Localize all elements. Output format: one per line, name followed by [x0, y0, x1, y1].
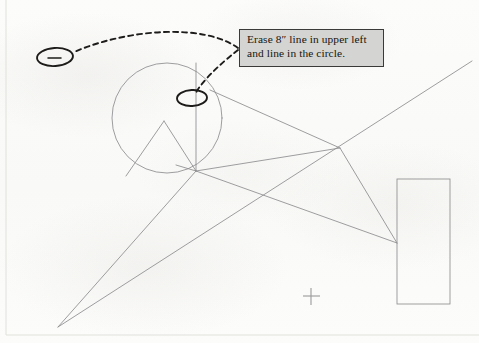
leader-to-circle-ellipse — [196, 50, 238, 93]
cad-geometry — [58, 61, 472, 327]
callout-line-1: Erase 8″ line in upper left — [247, 33, 377, 47]
ellipse-upper-left — [36, 47, 73, 67]
crossing-right-to-rect-node — [340, 148, 397, 243]
callout-line-2: and line in the circle. — [247, 47, 377, 61]
long-diagonal-lower-left-to-upper-right — [58, 61, 472, 327]
circle-peak-left-leg — [126, 121, 164, 176]
hub-to-lower-left-apex — [58, 171, 196, 327]
circle-right-tangent-to-crossing — [210, 90, 340, 148]
circle-peak-right-leg — [164, 121, 196, 171]
hub-to-rect-node — [196, 171, 397, 243]
handwritten-annotation-layer — [36, 32, 238, 107]
right-rectangle — [397, 179, 450, 304]
scanned-drawing-page: Erase 8″ line in upper left and line in … — [0, 0, 479, 343]
main-circle — [112, 63, 222, 173]
center-crosshair-marker — [303, 288, 320, 305]
leader-to-upper-left-ellipse — [74, 32, 238, 52]
ellipse-in-circle — [177, 89, 208, 107]
erase-instruction-callout[interactable]: Erase 8″ line in upper left and line in … — [239, 29, 384, 67]
